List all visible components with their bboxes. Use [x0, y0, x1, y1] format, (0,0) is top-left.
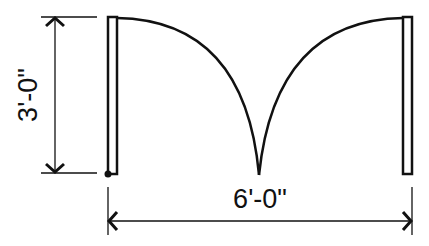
- hinge-point: [105, 171, 112, 178]
- right-door-leaf: [403, 17, 412, 174]
- right-swing-arc: [259, 18, 403, 175]
- height-dimension: 3'-0": [13, 17, 97, 173]
- left-swing-arc: [117, 18, 259, 175]
- width-dimension: 6'-0": [108, 184, 412, 235]
- height-label: 3'-0": [13, 68, 43, 122]
- width-label: 6'-0": [233, 184, 287, 214]
- left-door-leaf: [108, 17, 117, 174]
- double-door-diagram: 3'-0" 6'-0": [0, 0, 429, 246]
